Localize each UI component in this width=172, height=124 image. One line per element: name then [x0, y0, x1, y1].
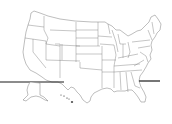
us-states-map — [0, 0, 172, 124]
alaska-inset — [23, 82, 48, 101]
hawaii-inset — [60, 95, 73, 104]
conterminous-us-outline — [23, 11, 161, 103]
